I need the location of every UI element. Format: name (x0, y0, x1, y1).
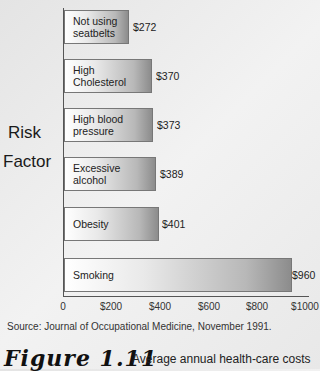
bar-label: High Cholesterol (73, 64, 126, 88)
bar-obesity: Obesity (64, 207, 159, 241)
bar-value: $272 (133, 21, 156, 33)
bar-alcohol: Excessive alcohol (64, 157, 156, 191)
bar-blood-pressure: High blood pressure (64, 108, 153, 142)
bar-label: Smoking (73, 269, 114, 281)
x-tick: 0 (60, 301, 66, 312)
bar-value: $373 (157, 119, 180, 131)
bar-smoking: Smoking (64, 258, 292, 292)
bar-label: High blood pressure (73, 113, 123, 137)
y-axis-label-risk: Risk (8, 123, 68, 143)
bar-value: $960 (292, 269, 315, 281)
bar-cholesterol: High Cholesterol (64, 59, 152, 93)
bar-label: Excessive alcohol (73, 162, 120, 186)
x-tick: $1000 (291, 301, 319, 312)
x-axis-line (63, 296, 309, 297)
x-tick: $400 (149, 301, 171, 312)
figure-caption: Average annual health-care costs (132, 352, 311, 366)
bar-value: $370 (156, 70, 179, 82)
bar-value: $401 (162, 218, 185, 230)
x-tick: $800 (246, 301, 268, 312)
source-note: Source: Journal of Occupational Medicine… (7, 321, 272, 332)
bar-value: $389 (160, 168, 183, 180)
y-axis-label-factor: Factor (3, 152, 63, 172)
bar-seatbelts: Not using seatbelts (64, 10, 129, 44)
y-axis-line (63, 8, 64, 296)
x-tick: $200 (100, 301, 122, 312)
bar-label: Not using seatbelts (73, 15, 117, 39)
bar-label: Obesity (73, 218, 109, 230)
x-tick: $600 (198, 301, 220, 312)
